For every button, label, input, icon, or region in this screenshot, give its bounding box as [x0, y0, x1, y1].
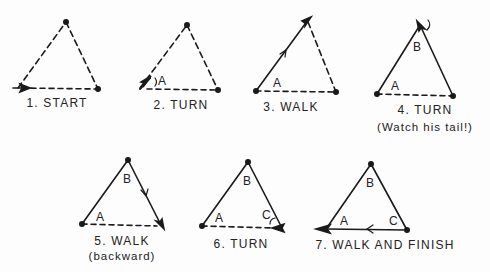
pencil-arrow-icon — [20, 84, 30, 92]
caption-step-4: 4. TURN — [398, 103, 453, 117]
vertex-dot — [451, 94, 455, 98]
side-bc-solid — [128, 160, 161, 225]
side-ab-solid — [256, 20, 308, 91]
turn-arc-icon — [270, 218, 275, 224]
triangle-walk-diagram: A A A B A B A B C A B C 1. START 2. TURN… — [0, 0, 490, 272]
side-bc-dashed — [66, 22, 98, 89]
vertex-label-a: A — [215, 211, 223, 225]
caption-step-6: 6. TURN — [214, 237, 269, 251]
side-bc-solid — [420, 25, 453, 96]
vertex-label-c: C — [262, 208, 271, 222]
side-ca-dashed — [377, 94, 453, 96]
panel-3-walk — [254, 17, 338, 94]
panel-5-walk-backward — [80, 158, 164, 229]
vertex-label-a: A — [158, 74, 166, 88]
vertex-dot — [405, 228, 409, 232]
pencil-arrow-icon — [417, 21, 425, 31]
diagram-canvas: A A A B A B A B C A B C — [0, 0, 490, 272]
caption-step-2: 2. TURN — [154, 98, 209, 112]
side-ca-dashed — [82, 224, 157, 226]
side-ab-solid — [202, 162, 248, 226]
caption-step-3: 3. WALK — [263, 100, 318, 114]
vertex-dot — [64, 20, 68, 24]
vertex-label-b: B — [413, 40, 421, 54]
vertex-label-a: A — [96, 210, 104, 224]
vertex-dot — [96, 87, 100, 91]
caption-step-1: 1. START — [26, 96, 87, 110]
pencil-arrow-icon — [156, 219, 164, 229]
pencil-arrow-icon — [316, 225, 330, 233]
side-ab-solid — [326, 164, 371, 229]
caption-step-5: 5. WALK — [94, 234, 149, 248]
subcaption-step-5: (backward) — [89, 250, 156, 262]
vertex-dot — [334, 90, 338, 94]
caption-step-7: 7. WALK AND FINISH — [315, 238, 454, 252]
vertex-label-c: C — [389, 214, 398, 228]
side-ab-solid — [82, 160, 128, 224]
vertex-dot — [80, 222, 84, 226]
side-ab-dashed — [18, 22, 66, 88]
side-bc-dashed — [308, 22, 336, 92]
turn-arc-icon — [427, 20, 430, 30]
panel-4-turn — [375, 20, 455, 98]
pencil-arrow-icon — [272, 224, 284, 232]
subcaption-step-4: (Watch his tail!) — [377, 121, 473, 133]
vertex-dot — [254, 89, 258, 93]
vertex-dot — [126, 158, 130, 162]
vertex-dot — [216, 88, 220, 92]
vertex-label-a: A — [273, 76, 281, 90]
vertex-label-a: A — [340, 214, 348, 228]
turn-arc-icon — [155, 78, 157, 86]
vertex-dot — [369, 162, 373, 166]
side-ca-dashed — [202, 226, 276, 228]
panel-2-turn — [140, 23, 220, 92]
side-bc-dashed — [187, 25, 218, 90]
vertex-label-b: B — [123, 172, 131, 186]
vertex-label-b: B — [366, 176, 374, 190]
vertex-dot — [246, 160, 250, 164]
side-ca-dashed — [22, 88, 98, 89]
vertex-dot — [375, 92, 379, 96]
side-ca-dashed — [256, 91, 336, 92]
vertex-dot — [185, 23, 189, 27]
panel-1-start — [13, 20, 100, 92]
panel-6-turn — [200, 160, 284, 232]
vertex-label-a: A — [391, 79, 399, 93]
vertex-label-b: B — [243, 174, 251, 188]
vertex-dot — [200, 224, 204, 228]
side-ca-dashed — [147, 89, 218, 90]
